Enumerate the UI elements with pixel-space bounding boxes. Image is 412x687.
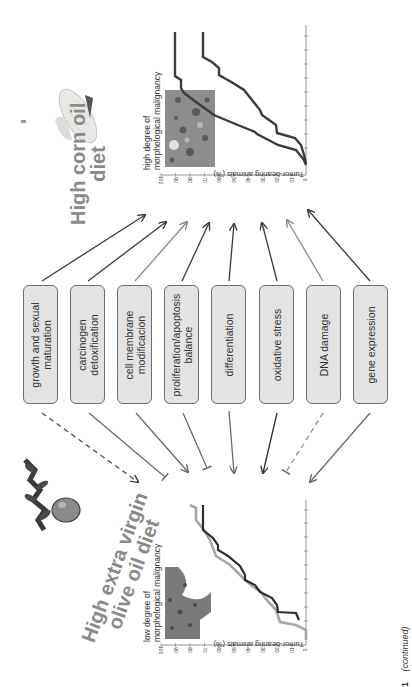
corn-value-ticks: 100 90 80 70 60 50 40 30 20 10 0 bbox=[157, 177, 312, 185]
tick-label: 0 bbox=[302, 179, 308, 182]
tick-label: 70 bbox=[202, 647, 208, 653]
corn-diet-title: High corn oil diet bbox=[68, 103, 108, 225]
tick-label: 80 bbox=[187, 177, 193, 183]
tick-label: 30 bbox=[260, 177, 266, 183]
factor-label: proliferation/apoptosis balance bbox=[170, 287, 194, 402]
tick-label: 10 bbox=[289, 177, 295, 183]
arrow-differentiation-olive bbox=[229, 411, 234, 473]
figure-label: 1 bbox=[400, 682, 410, 687]
factor-box-oxidative: oxidative stress bbox=[259, 285, 294, 404]
tick-label: 90 bbox=[173, 647, 179, 653]
arrow-growth-olive bbox=[42, 413, 138, 482]
tick-label: 50 bbox=[231, 177, 237, 183]
inset-label-line2: morphological malignancy bbox=[153, 72, 163, 170]
arrow-gene-olive bbox=[310, 413, 370, 482]
corn-inset-label: high degree of morphological malignancy bbox=[143, 72, 162, 170]
factor-label: oxidative stress bbox=[271, 287, 283, 402]
inhibit-proliferation-olive bbox=[183, 413, 207, 468]
tick-label: 80 bbox=[187, 647, 193, 653]
factor-box-carcinogen: carcinogen detoxification bbox=[70, 285, 105, 404]
tick-label: 10 bbox=[289, 647, 295, 653]
factor-box-dna: DNA damage bbox=[306, 285, 341, 404]
tick-label: 100 bbox=[158, 176, 164, 184]
tick-label: 70 bbox=[202, 177, 208, 183]
factor-label: gene expression bbox=[365, 287, 377, 402]
tick-label: 20 bbox=[274, 647, 280, 653]
tick-label: 30 bbox=[260, 647, 266, 653]
factor-box-growth: growth and sexual maturation bbox=[23, 285, 58, 404]
olive-inset-label: low degree of morphological malignancy bbox=[143, 544, 162, 642]
factor-label: carcinogen detoxification bbox=[76, 287, 100, 402]
caption-continued: (continued) bbox=[400, 626, 410, 671]
diagram-graphics bbox=[0, 0, 412, 687]
arrows-to-olive bbox=[42, 411, 370, 482]
tick-label: 40 bbox=[245, 647, 251, 653]
tick-label: 90 bbox=[173, 177, 179, 183]
inhibit-carcinogen-olive bbox=[89, 413, 165, 477]
factor-box-differentiation: differentiation bbox=[211, 285, 246, 404]
tick-label: 60 bbox=[216, 647, 222, 653]
factor-label: differentiation bbox=[223, 287, 235, 402]
arrow-membrane-olive bbox=[136, 413, 188, 472]
figure-caption: 1 (continued) bbox=[400, 626, 410, 687]
factor-box-proliferation: proliferation/apoptosis balance bbox=[164, 285, 199, 404]
inset-label-line2: morphological malignancy bbox=[153, 544, 163, 642]
arrow-oxidative-olive bbox=[263, 413, 277, 473]
olive-chart bbox=[161, 500, 308, 647]
corn-chart bbox=[161, 25, 308, 177]
arrow-differentiation-corn bbox=[229, 224, 234, 281]
tick-label: 20 bbox=[274, 177, 280, 183]
factor-label: cell membrane modificacion bbox=[123, 287, 147, 402]
arrow-carcinogen-corn bbox=[88, 222, 166, 281]
olive-value-ticks: 100 90 80 70 60 50 40 30 20 10 0 bbox=[157, 647, 312, 655]
factor-label: growth and sexual maturation bbox=[29, 287, 53, 402]
factor-box-gene: gene expression bbox=[353, 285, 388, 404]
factor-label: DNA damage bbox=[318, 287, 330, 402]
corn-title-line2: diet bbox=[88, 103, 108, 225]
tick-label: 60 bbox=[216, 177, 222, 183]
olive-branch-icon bbox=[23, 460, 80, 530]
tick-label: 40 bbox=[245, 177, 251, 183]
arrow-oxidative-corn bbox=[262, 223, 277, 281]
factor-box-membrane: cell membrane modificacion bbox=[117, 285, 152, 404]
tick-label: 50 bbox=[231, 647, 237, 653]
tick-label: 100 bbox=[158, 646, 164, 654]
arrow-dna-corn bbox=[287, 220, 323, 281]
inhibit-dna-olive bbox=[286, 413, 323, 472]
tick-label: 0 bbox=[302, 649, 308, 652]
corn-title-line1: High corn oil bbox=[68, 103, 88, 225]
arrow-proliferation-corn bbox=[182, 223, 209, 281]
arrow-membrane-corn bbox=[135, 222, 187, 281]
